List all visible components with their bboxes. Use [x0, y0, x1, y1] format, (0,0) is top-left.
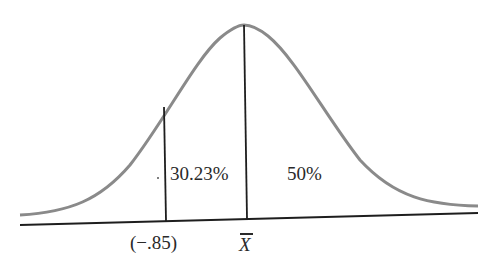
- mean-line: [244, 25, 247, 219]
- dot-mark: [157, 177, 159, 179]
- z-value-label: (−.85): [130, 232, 177, 254]
- z-value-line: [164, 107, 166, 221]
- x-axis-baseline: [20, 213, 478, 225]
- mean-label: X: [239, 234, 251, 256]
- region-label-right: 50%: [287, 163, 322, 185]
- bell-curve: [20, 25, 478, 215]
- region-label-left: 30.23%: [170, 163, 229, 185]
- mean-symbol: X: [239, 234, 251, 255]
